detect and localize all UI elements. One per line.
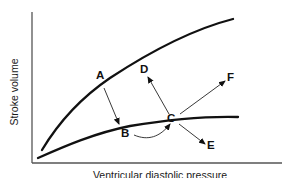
point-label-c: C: [167, 113, 175, 125]
x-axis-label: Ventricular diastolic pressure: [60, 169, 260, 178]
arrow-a-to-b: [104, 88, 119, 124]
arrow-b-to-c: [134, 124, 170, 138]
arrow-c-to-f: [180, 81, 225, 114]
diagram-svg: [0, 0, 290, 178]
diagram-canvas: A B C D E F Stroke volume Ventricular di…: [0, 0, 290, 178]
y-axis-label: Stroke volume: [8, 47, 20, 137]
lower-curve: [38, 117, 238, 158]
point-label-b: B: [121, 128, 129, 140]
arrow-c-to-d: [148, 77, 169, 114]
point-label-f: F: [227, 72, 234, 84]
point-label-e: E: [207, 140, 215, 152]
point-label-a: A: [96, 70, 104, 82]
upper-curve: [42, 19, 233, 150]
arrow-c-to-e: [179, 124, 205, 144]
point-label-d: D: [140, 64, 148, 76]
